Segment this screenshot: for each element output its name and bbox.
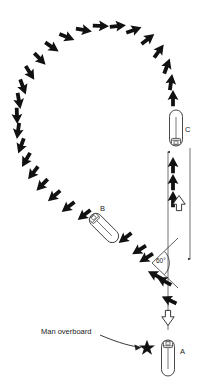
angle-label: 60° (156, 258, 166, 265)
track-arrow (109, 20, 126, 32)
man-overboard-diagram: A B C 60° Man overboard (0, 0, 202, 389)
vessel-label-a: A (180, 348, 185, 356)
vessel-label-c: C (185, 126, 190, 134)
vessel-b (87, 211, 122, 246)
track-arrow (165, 73, 178, 91)
hollow-arrow-heading-north (162, 310, 174, 325)
track-arrow (168, 90, 179, 106)
track-arrow (150, 41, 168, 60)
track-arrow (124, 22, 143, 38)
track-arrow (168, 174, 179, 190)
vessel-c (170, 110, 183, 146)
man-overboard-star (139, 340, 155, 355)
callout-leader-group (100, 335, 142, 351)
track-arrow (42, 38, 61, 56)
track-arrow (159, 57, 175, 76)
track-arrow (12, 122, 25, 140)
track-arrow (12, 92, 25, 110)
track-arrow (75, 23, 93, 36)
track-arrow (44, 187, 63, 206)
track-arrow (21, 63, 39, 82)
track-arrow (138, 30, 157, 48)
diagram-canvas (0, 0, 202, 389)
track-arrow (30, 49, 49, 68)
track-arrow (17, 150, 34, 169)
vessel-label-b: B (100, 205, 105, 213)
track-arrow (57, 29, 76, 45)
track-arrow (159, 292, 178, 309)
man-overboard-label: Man overboard (41, 328, 91, 336)
track-arrow (11, 108, 22, 125)
callout-leader-line (100, 335, 138, 347)
track-arrow (93, 20, 110, 31)
track-arrow (13, 136, 29, 155)
track-arrow (24, 163, 42, 182)
track-arrow (58, 198, 77, 216)
track-arrow (168, 157, 179, 173)
vessel-a (162, 340, 175, 376)
track-arrow (33, 175, 52, 194)
